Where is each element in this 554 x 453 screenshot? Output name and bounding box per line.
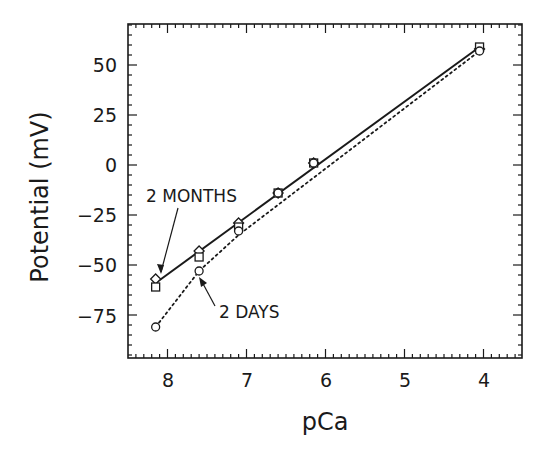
y-tick-labels: 50 25 0 −25 −50 −75 xyxy=(77,54,117,327)
x-tick-8: 8 xyxy=(162,369,174,391)
y-axis-title: Potential (mV) xyxy=(26,111,54,282)
circle-marker-icon xyxy=(310,159,318,167)
x-tick-5: 5 xyxy=(399,369,411,391)
y-tick-minus25: −25 xyxy=(77,204,117,226)
square-marker-icon xyxy=(152,283,160,291)
circle-marker-icon xyxy=(152,323,160,331)
y-tick-minus75: −75 xyxy=(77,305,117,327)
arrowhead-2-days-icon xyxy=(199,277,207,287)
arrow-2-months xyxy=(161,208,178,272)
arrowhead-2-months-icon xyxy=(157,264,164,274)
y-tick-25: 25 xyxy=(93,104,117,126)
circle-marker-icon xyxy=(195,267,203,275)
x-tick-6: 6 xyxy=(320,369,332,391)
circle-marker-icon xyxy=(274,189,282,197)
x-tick-labels: 8 7 6 5 4 xyxy=(162,369,490,391)
annotation-2-months-label: 2 MONTHS xyxy=(146,186,237,206)
x-axis-title: pCa xyxy=(302,408,349,436)
y-tick-0: 0 xyxy=(105,154,117,176)
chart: 50 25 0 −25 −50 −75 8 7 6 5 4 pCa Potent… xyxy=(0,0,554,453)
y-tick-minus50: −50 xyxy=(77,254,117,276)
annotation-2-months: 2 MONTHS xyxy=(146,186,237,274)
y-tick-50: 50 xyxy=(93,54,117,76)
annotation-2-days: 2 DAYS xyxy=(199,277,280,322)
circle-marker-icon xyxy=(476,47,484,55)
x-tick-4: 4 xyxy=(478,369,490,391)
circle-marker-icon xyxy=(235,227,243,235)
square-marker-icon xyxy=(195,253,203,261)
x-tick-7: 7 xyxy=(241,369,253,391)
annotation-2-days-label: 2 DAYS xyxy=(219,302,280,322)
